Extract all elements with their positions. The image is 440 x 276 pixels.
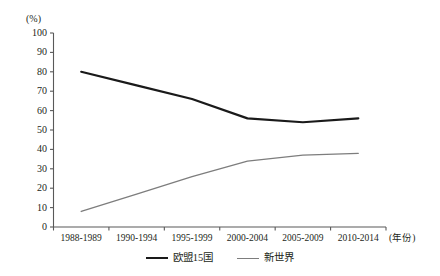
- legend-item[interactable]: 欧盟15国: [146, 252, 214, 264]
- series-line-1: [81, 153, 358, 211]
- legend-item-label: 新世界: [264, 252, 294, 264]
- legend-line-swatch-icon: [146, 257, 168, 259]
- x-axis-tick-label: 2000-2004: [220, 233, 275, 244]
- line-chart: (%) 0102030405060708090100 1988-19891990…: [0, 0, 440, 276]
- x-axis-title: (年份): [389, 233, 415, 244]
- x-axis-tick-label: 2005-2009: [275, 233, 330, 244]
- x-axis-tick-label: 1988-1989: [54, 233, 109, 244]
- legend-line-swatch-icon: [237, 258, 259, 259]
- legend-item-label: 欧盟15国: [173, 252, 214, 264]
- series-line-0: [81, 72, 358, 122]
- x-axis-tick-label: 1990-1994: [109, 233, 164, 244]
- legend-item[interactable]: 新世界: [237, 252, 294, 264]
- x-axis-tick-label: 2010-2014: [331, 233, 386, 244]
- x-axis-tick-label: 1995-1999: [164, 233, 219, 244]
- chart-legend: 欧盟15国新世界: [0, 252, 440, 264]
